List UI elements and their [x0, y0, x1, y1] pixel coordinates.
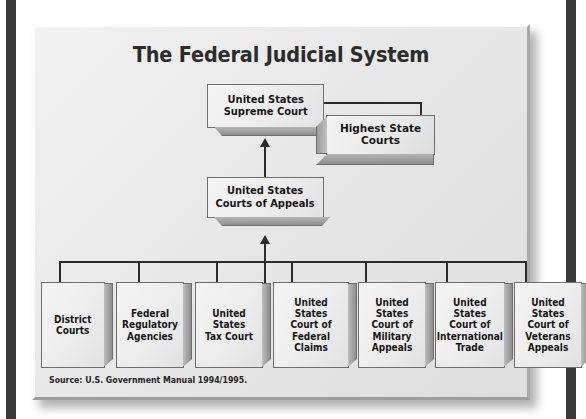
- node-court-of-veterans-appeals-label: United StatesCourt ofVeteransAppeals: [518, 297, 577, 353]
- node-supreme-court-label: United StatesSupreme Court: [223, 94, 307, 119]
- node-united-states-tax-court[interactable]: United StatesTax Court: [195, 282, 263, 368]
- node-federal-regulatory-agencies[interactable]: FederalRegulatoryAgencies: [116, 282, 184, 368]
- page-title: The Federal Judicial System: [55, 43, 508, 67]
- node-courts-of-appeals-label: United StatesCourts of Appeals: [216, 185, 315, 210]
- bus-drop-2: [138, 261, 140, 283]
- bottom-bus-horizontal: [59, 261, 527, 263]
- edge-appeals-to-supreme-line: [264, 146, 266, 178]
- node-court-of-international-trade[interactable]: United StatesCourt ofInternationalTrade: [435, 282, 505, 368]
- edge-bus-to-appeals-arrowhead: [260, 235, 270, 244]
- node-supreme-court[interactable]: United StatesSupreme Court: [207, 84, 324, 128]
- node-court-of-international-trade-label: United StatesCourt ofInternationalTrade: [437, 297, 503, 353]
- bus-drop-5: [365, 261, 367, 283]
- node-court-of-federal-claims-label: United StatesCourt ofFederal Claims: [278, 297, 345, 353]
- node-federal-regulatory-agencies-label: FederalRegulatoryAgencies: [122, 308, 178, 342]
- page-edge-left: [6, 0, 16, 419]
- node-district-courts[interactable]: DistrictCourts: [41, 282, 105, 368]
- bus-drop-7: [525, 261, 527, 283]
- bus-drop-3: [216, 261, 218, 283]
- node-courts-of-appeals[interactable]: United StatesCourts of Appeals: [207, 177, 324, 218]
- node-united-states-tax-court-label: United StatesTax Court: [199, 308, 258, 342]
- node-highest-state-courts[interactable]: Highest StateCourts: [326, 115, 435, 155]
- node-court-of-veterans-appeals[interactable]: United StatesCourt ofVeteransAppeals: [514, 282, 582, 368]
- edge-supreme-to-state-horizontal: [324, 102, 422, 104]
- bus-drop-4: [291, 261, 293, 283]
- source-caption: Source: U.S. Government Manual 1994/1995…: [49, 375, 247, 385]
- node-court-of-military-appeals-label: United StatesCourt ofMilitaryAppeals: [362, 297, 421, 353]
- node-district-courts-label: DistrictCourts: [54, 314, 91, 336]
- edge-appeals-to-supreme-arrowhead: [260, 138, 270, 147]
- node-court-of-federal-claims[interactable]: United StatesCourt ofFederal Claims: [273, 282, 349, 368]
- node-court-of-military-appeals[interactable]: United StatesCourt ofMilitaryAppeals: [358, 282, 426, 368]
- node-highest-state-courts-label: Highest StateCourts: [340, 123, 421, 147]
- diagram-canvas: The Federal Judicial System United State…: [35, 27, 527, 397]
- diagram-panel: The Federal Judicial System United State…: [32, 24, 530, 400]
- bus-drop-6: [446, 261, 448, 283]
- bus-drop-1: [59, 261, 61, 283]
